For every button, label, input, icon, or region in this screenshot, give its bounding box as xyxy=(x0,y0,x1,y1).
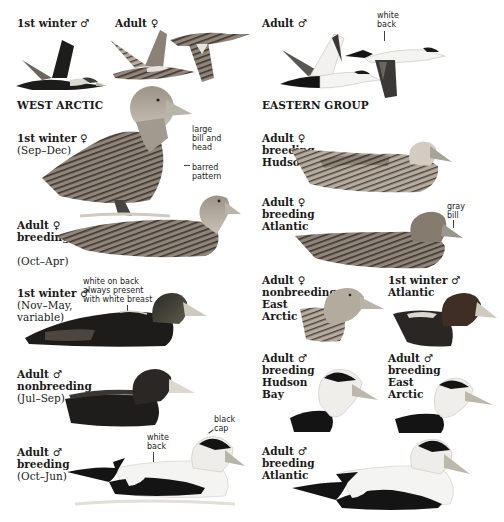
bird-east-adult-female-nonbreeding-east-arctic xyxy=(300,285,385,345)
bird-east-adult-male-breeding-east-arctic xyxy=(395,375,495,435)
bird-flight-adult-male-2 xyxy=(345,40,475,100)
bird-east-adult-male-breeding-atlantic xyxy=(292,438,472,516)
bird-east-adult-male-breeding-hudson-bay xyxy=(290,368,380,433)
bird-west-adult-male-breeding xyxy=(65,428,250,508)
section-heading-eastern-group: EASTERN GROUP xyxy=(262,99,369,111)
label-flight-adult-male: Adult ♂ xyxy=(262,17,307,29)
bird-east-1st-winter-male-atlantic xyxy=(393,290,498,350)
bird-flight-adult-female-2 xyxy=(168,26,253,86)
label-flight-1st-winter-male: 1st winter ♂ xyxy=(17,17,90,29)
bird-west-1st-winter-male xyxy=(25,288,215,348)
bird-west-adult-male-nonbreeding xyxy=(65,365,200,430)
label-west-adult-male-breeding: Adult ♂ breeding (Oct–Jun) xyxy=(17,446,70,482)
bird-west-adult-female-breeding xyxy=(55,188,245,263)
note-white-back-flight: white back xyxy=(377,11,399,29)
bird-east-adult-female-breeding-hudson-bay xyxy=(290,140,455,195)
bird-east-adult-female-breeding-atlantic xyxy=(295,208,465,270)
leader-line xyxy=(184,165,190,166)
note-large-bill-and-head: large bill and head xyxy=(192,125,221,152)
note-barred-pattern: barred pattern xyxy=(192,163,221,181)
